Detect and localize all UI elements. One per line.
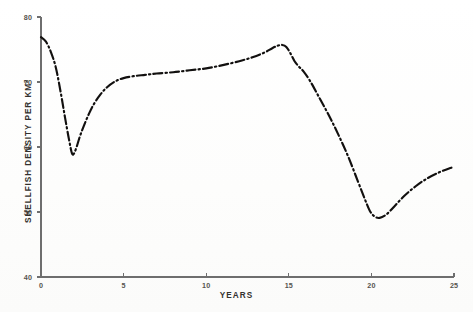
x-tick-label: 0 bbox=[33, 281, 49, 290]
y-axis-title-superscript: 2 bbox=[23, 80, 29, 83]
x-axis-title: YEARS bbox=[0, 291, 473, 300]
x-tick-label: 10 bbox=[198, 281, 214, 290]
x-tick-label: 20 bbox=[363, 281, 379, 290]
y-axis-title: SHELLFISH DENSITY PER KM2 bbox=[23, 51, 34, 251]
data-series-group bbox=[41, 37, 454, 218]
axes bbox=[37, 17, 454, 277]
y-axis-title-text: SHELLFISH DENSITY PER KM bbox=[24, 83, 33, 223]
chart-figure: 4050607080 0510152025 YEARS SHELLFISH DE… bbox=[0, 0, 473, 312]
y-tick-label: 80 bbox=[16, 13, 32, 22]
plot-area bbox=[0, 0, 473, 312]
x-tick-label: 15 bbox=[281, 281, 297, 290]
y-tick-label: 40 bbox=[16, 273, 32, 282]
y-tick-marks bbox=[37, 17, 41, 277]
shellfish-density-curve bbox=[41, 37, 454, 218]
x-tick-marks bbox=[41, 273, 454, 277]
x-tick-label: 5 bbox=[116, 281, 132, 290]
x-tick-label: 25 bbox=[446, 281, 462, 290]
